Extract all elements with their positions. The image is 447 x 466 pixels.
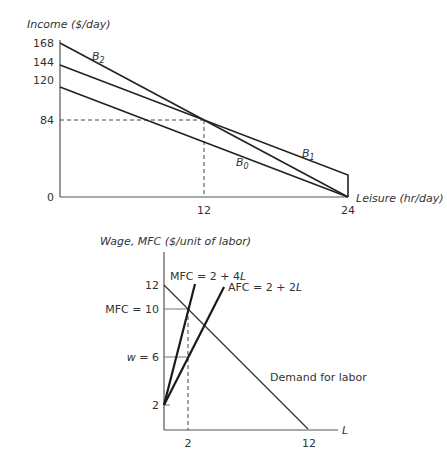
bottom-y-tick-mfc10: MFC = 10 bbox=[105, 303, 159, 316]
bottom-y-tick-12: 12 bbox=[145, 279, 159, 292]
bottom-x-tick-12: 12 bbox=[302, 437, 316, 450]
bottom-y-tick-2: 2 bbox=[152, 399, 159, 412]
label-demand-for-labor: Demand for labor bbox=[270, 371, 367, 384]
bottom-y-axis-label: Wage, MFC ($/unit of labor) bbox=[100, 235, 251, 248]
top-y-tick-120: 120 bbox=[33, 74, 54, 87]
top-x-tick-12: 12 bbox=[197, 204, 211, 217]
top-y-tick-168: 168 bbox=[33, 37, 54, 50]
top-y-axis-label: Income ($/day) bbox=[27, 18, 111, 31]
figure: Income ($/day) 168 144 120 84 0 12 24 Le… bbox=[0, 0, 447, 466]
labor-leisure-chart: Income ($/day) 168 144 120 84 0 12 24 Le… bbox=[27, 18, 443, 217]
monopsony-chart: Wage, MFC ($/unit of labor) 12 MFC = 10 … bbox=[100, 235, 367, 450]
label-b2: B2 bbox=[92, 50, 105, 65]
budget-line-b0 bbox=[60, 87, 348, 197]
bottom-x-tick-2: 2 bbox=[185, 437, 192, 450]
bottom-y-tick-w6: w = 6 bbox=[127, 351, 159, 364]
label-b1: B1 bbox=[302, 147, 315, 162]
top-x-tick-24: 24 bbox=[341, 204, 355, 217]
mfc-line bbox=[164, 284, 195, 405]
label-afc: AFC = 2 + 2L bbox=[228, 281, 302, 294]
bottom-x-axis-label: L bbox=[342, 424, 348, 437]
top-y-tick-144: 144 bbox=[33, 56, 54, 69]
top-y-tick-0: 0 bbox=[47, 191, 54, 204]
top-y-tick-84: 84 bbox=[40, 114, 54, 127]
top-x-axis-label: Leisure (hr/day) bbox=[356, 192, 443, 205]
afc-line bbox=[164, 287, 224, 405]
